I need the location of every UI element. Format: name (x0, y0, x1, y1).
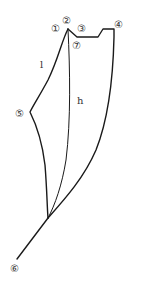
label-point-6: ⑥ (10, 263, 19, 274)
label-point-5: ⑤ (15, 108, 24, 119)
label-point-2: ② (62, 15, 71, 26)
label-line-h: h (77, 95, 84, 106)
pattern-diagram: ① ② ③ ④ ⑤ ⑥ ⑦ l h (0, 0, 145, 287)
left-outline-curve (30, 29, 68, 218)
label-point-1: ① (51, 23, 60, 34)
label-point-4: ④ (114, 19, 123, 30)
tail-line (17, 218, 48, 259)
label-point-7: ⑦ (72, 40, 81, 51)
label-point-3: ③ (77, 23, 86, 34)
center-line-h (48, 29, 70, 218)
label-line-l: l (40, 59, 43, 70)
